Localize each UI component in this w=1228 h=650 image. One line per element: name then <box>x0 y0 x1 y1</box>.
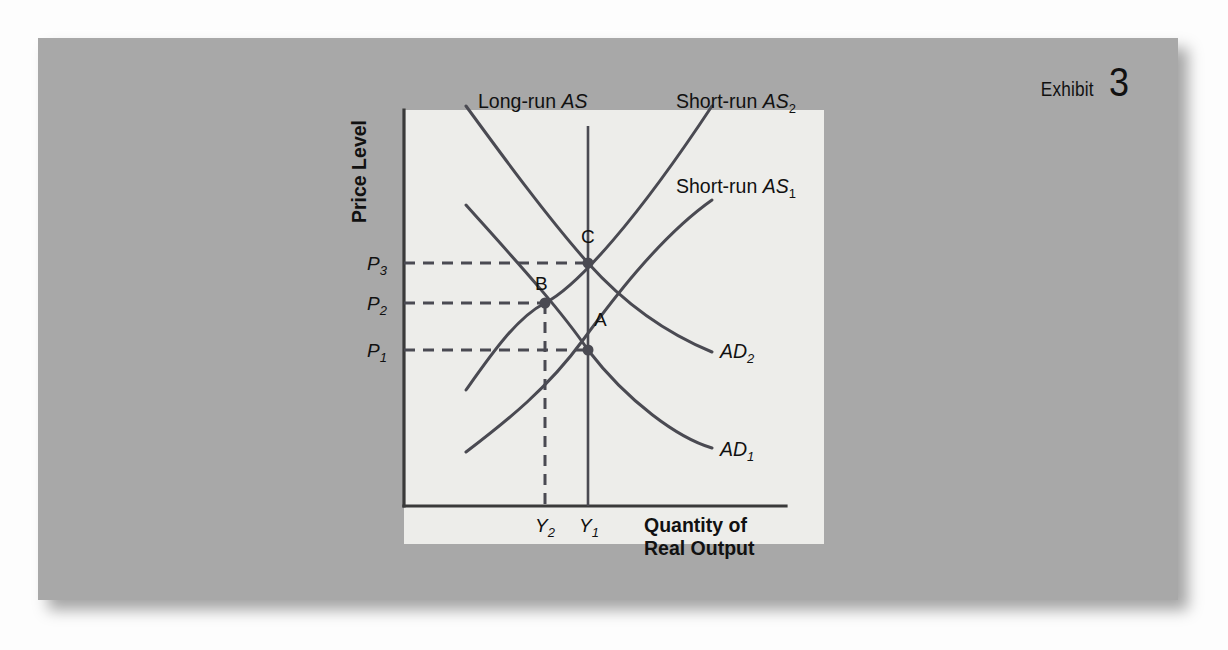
ad1-label: AD1 <box>719 438 754 464</box>
x-tick-y1-sub: 1 <box>592 525 599 540</box>
exhibit-figure: Exhibit 3 <box>0 0 1228 650</box>
x-tick-y2: Y2 <box>535 515 556 540</box>
ad1-label-sub: 1 <box>747 449 754 464</box>
y-tick-p1-base: P <box>367 340 380 361</box>
y-tick-p2-sub: 2 <box>379 303 388 318</box>
short-run-as2-label: Short-run AS2 <box>676 90 796 116</box>
ad2-label-sub: 2 <box>746 351 755 366</box>
point-b-label: B <box>535 273 548 294</box>
chart-canvas: A B C Long-run AS Short-run AS2 Short-ru… <box>38 38 1178 600</box>
y-tick-p2: P2 <box>367 293 388 318</box>
y-tick-p3: P3 <box>367 253 388 278</box>
short-run-as1-label: Short-run AS1 <box>676 175 796 201</box>
x-tick-y2-sub: 2 <box>547 525 556 540</box>
point-a-dot <box>583 345 594 356</box>
y-tick-p2-base: P <box>367 293 380 314</box>
y-axis-title: Price Level <box>348 120 370 223</box>
point-a-label: A <box>594 309 607 330</box>
short-run-as2-label-prefix: Short-run <box>676 90 763 112</box>
long-run-as-label-italic: AS <box>560 90 587 112</box>
point-c-label: C <box>581 226 595 247</box>
y-tick-p3-base: P <box>367 253 380 274</box>
exhibit-panel: Exhibit 3 <box>38 38 1178 600</box>
ad2-label-italic: AD <box>719 340 747 362</box>
ad2-label: AD2 <box>719 340 755 366</box>
short-run-as1-label-prefix: Short-run <box>676 175 763 197</box>
y-tick-p3-sub: 3 <box>380 263 388 278</box>
short-run-as1-label-italic: AS <box>762 175 789 197</box>
y-tick-p1-sub: 1 <box>380 350 387 365</box>
long-run-as-label-prefix: Long-run <box>478 90 561 112</box>
x-tick-y1: Y1 <box>579 515 599 540</box>
short-run-as1-label-sub: 1 <box>789 186 796 201</box>
x-axis-title-line1: Quantity of <box>644 514 747 536</box>
x-axis-title-line2: Real Output <box>644 537 755 559</box>
point-b-dot <box>540 298 551 309</box>
short-run-as2-label-italic: AS <box>762 90 789 112</box>
ad1-label-italic: AD <box>719 438 747 460</box>
point-c-dot <box>583 258 594 269</box>
long-run-as-label: Long-run AS <box>478 90 588 112</box>
y-tick-p1: P1 <box>367 340 387 365</box>
short-run-as2-label-sub: 2 <box>789 101 796 116</box>
